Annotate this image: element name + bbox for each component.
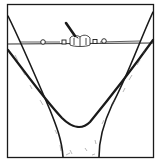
tensioner-handle	[66, 23, 78, 38]
ratchet-tensioner	[70, 35, 90, 46]
frame-border	[8, 5, 154, 158]
bark-texture	[15, 50, 145, 155]
illustration-canvas	[0, 0, 159, 163]
tree-fork-illustration	[0, 0, 159, 163]
tree-trunk	[8, 12, 153, 157]
